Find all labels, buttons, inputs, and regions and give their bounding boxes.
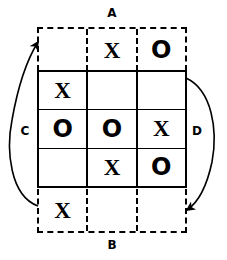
diagram-canvas: A B C D X O X O O X X O X <box>0 0 227 260</box>
cell-r0c1[interactable]: X <box>86 29 135 71</box>
arrow-d-path <box>186 78 214 210</box>
cell-r4c0[interactable]: X <box>39 189 86 231</box>
cell-r2c1[interactable]: O <box>86 109 135 148</box>
edge-label-c: C <box>18 124 32 138</box>
edge-label-d: D <box>190 124 204 138</box>
cell-r2c0[interactable]: O <box>39 109 86 148</box>
cell-r4c2[interactable] <box>136 189 185 231</box>
cell-r3c1[interactable]: X <box>86 148 135 186</box>
cell-r4c1[interactable] <box>86 189 135 231</box>
cell-r0c2[interactable]: O <box>136 29 185 71</box>
tic-tac-toe-board: X O X O O X X O X <box>37 27 187 233</box>
cell-r3c0[interactable] <box>39 148 86 186</box>
ghost-row-top: X O <box>37 27 187 71</box>
cell-r1c2[interactable] <box>136 72 185 109</box>
edge-label-a: A <box>104 6 120 20</box>
board-row-3: X O <box>37 148 187 188</box>
cell-r0c0[interactable] <box>39 29 86 71</box>
cell-r1c1[interactable] <box>86 72 135 109</box>
board-row-1: X <box>37 70 187 110</box>
cell-r3c2[interactable]: O <box>136 148 185 186</box>
board-row-2: O O X <box>37 109 187 149</box>
cell-r2c2[interactable]: X <box>136 109 185 148</box>
cell-r1c0[interactable]: X <box>39 72 86 109</box>
edge-label-b: B <box>104 238 120 252</box>
ghost-row-bottom: X <box>37 189 187 233</box>
